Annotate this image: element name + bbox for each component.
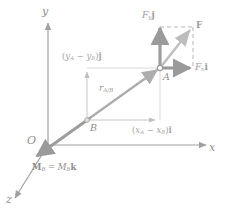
delta-x-label: (xA − xB)i [132, 126, 172, 136]
axis-label-y: y [42, 6, 48, 17]
point-b-marker [85, 118, 90, 123]
moment-vector [37, 118, 90, 156]
diagram-canvas [0, 0, 228, 212]
moment-equals: = [45, 162, 58, 172]
force-group [160, 27, 193, 68]
moment-symbol-scalar: M [58, 162, 67, 172]
origin-label: O [27, 135, 36, 146]
moment-label: MB = MBk [32, 163, 76, 173]
delta-x-minus: − [144, 125, 157, 135]
force-y-unit: j [151, 10, 154, 20]
axis-label-x: x [209, 142, 215, 153]
delta-y-minus: − [74, 51, 87, 61]
delta-x-unit: i [168, 125, 171, 135]
delta-y-label: (yA − yB)j [62, 52, 102, 62]
r-ab-vector [87, 70, 157, 120]
r-ab-subscript: A/B [103, 87, 113, 93]
force-resultant-label: F [196, 21, 202, 30]
force-resultant-symbol: F [196, 20, 202, 30]
moment-vector-diagram: y x z O A B Fyj F Fxi (yA − yB)j (xA − x… [0, 0, 228, 212]
force-x-unit: i [204, 62, 207, 72]
force-y-label: Fyj [142, 11, 155, 21]
delta-y-unit: j [99, 51, 102, 61]
point-a-marker [157, 65, 162, 70]
axis-label-z: z [6, 194, 12, 205]
moment-unit: k [70, 162, 76, 172]
point-a-label: A [163, 72, 170, 82]
force-x-label: Fxi [195, 63, 208, 73]
moment-symbol-vector: M [32, 162, 41, 172]
force-resultant-vector [160, 30, 190, 68]
point-b-label: B [90, 123, 97, 133]
r-ab-label: rA/B [99, 84, 113, 94]
